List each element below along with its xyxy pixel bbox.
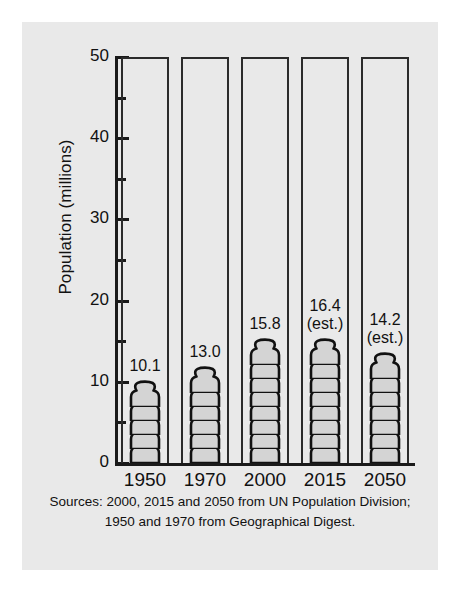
- x-tick-label: 2015: [295, 469, 355, 491]
- chart-figure: Population (millions) 01020304050 10.113…: [0, 0, 460, 601]
- person-icon: [188, 366, 222, 393]
- bar-column[interactable]: 10.1: [121, 57, 169, 463]
- person-icon: [308, 338, 342, 365]
- pictogram-stack[interactable]: [368, 352, 402, 463]
- bar-value: 14.2: [367, 311, 403, 328]
- y-tick-label: 40: [90, 127, 109, 147]
- source-line-1: Sources: 2000, 2015 and 2050 from UN Pop…: [32, 492, 428, 512]
- x-tick-label: 2000: [235, 469, 295, 491]
- chart-panel: Population (millions) 01020304050 10.113…: [22, 22, 438, 570]
- source-line-2: 1950 and 1970 from Geographical Digest.: [32, 512, 428, 532]
- bar-value-label: 15.8: [249, 315, 280, 332]
- pictogram-stack[interactable]: [188, 366, 222, 463]
- x-tick-label: 1950: [115, 469, 175, 491]
- pictogram-stack[interactable]: [308, 338, 342, 463]
- person-icon: [128, 380, 162, 407]
- y-tick-label: 0: [100, 452, 109, 472]
- pictogram-stack[interactable]: [248, 338, 282, 463]
- bar-value: 10.1: [129, 357, 160, 374]
- person-icon: [248, 338, 282, 365]
- y-axis-title: Population (millions): [56, 87, 76, 347]
- bar-value-label: 10.1: [129, 357, 160, 374]
- x-tick-label: 2050: [355, 469, 415, 491]
- bar-value-label: 16.4(est.): [307, 297, 343, 332]
- x-tick-label: 1970: [175, 469, 235, 491]
- y-tick-label: 30: [90, 208, 109, 228]
- y-tick-label: 50: [90, 46, 109, 66]
- bar-column[interactable]: 14.2(est.): [361, 57, 409, 463]
- x-axis-line: [115, 463, 415, 466]
- bar-value: 16.4: [307, 297, 343, 314]
- pictogram-stack[interactable]: [128, 380, 162, 463]
- plot-area: 01020304050 10.113.015.816.4(est.)14.2(e…: [115, 57, 415, 463]
- bar-column[interactable]: 16.4(est.): [301, 57, 349, 463]
- person-icon: [368, 352, 402, 379]
- source-note: Sources: 2000, 2015 and 2050 from UN Pop…: [32, 492, 428, 531]
- bar-column[interactable]: 15.8: [241, 57, 289, 463]
- bar-value-label: 13.0: [189, 343, 220, 360]
- y-tick-label: 20: [90, 289, 109, 309]
- y-tick-label: 10: [90, 370, 109, 390]
- bar-value-label: 14.2(est.): [367, 311, 403, 346]
- bar-value: 13.0: [189, 343, 220, 360]
- bar-value: 15.8: [249, 315, 280, 332]
- bar-value-qualifier: (est.): [307, 315, 343, 332]
- bar-column[interactable]: 13.0: [181, 57, 229, 463]
- bar-value-qualifier: (est.): [367, 329, 403, 346]
